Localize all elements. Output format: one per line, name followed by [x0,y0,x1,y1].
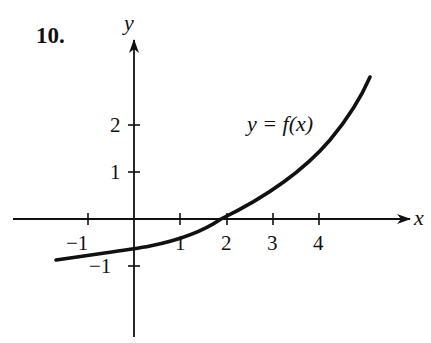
x-tick-label: 3 [267,231,278,255]
x-tick-label: 1 [175,231,186,255]
graph-figure: 10. x y −1 1 2 3 4 2 1 −1 y = f(x) [0,0,431,343]
x-axis-label: x [413,205,424,230]
y-axis-label: y [122,10,134,35]
curve-label: y = f(x) [245,111,313,136]
x-tick-label: 4 [313,231,324,255]
y-tick-label: 1 [110,160,121,184]
problem-number: 10. [36,23,65,48]
x-tick-label: −1 [66,231,88,255]
y-tick-label: −1 [89,254,111,278]
x-tick-label: 2 [221,231,232,255]
y-tick-label: 2 [110,113,121,137]
